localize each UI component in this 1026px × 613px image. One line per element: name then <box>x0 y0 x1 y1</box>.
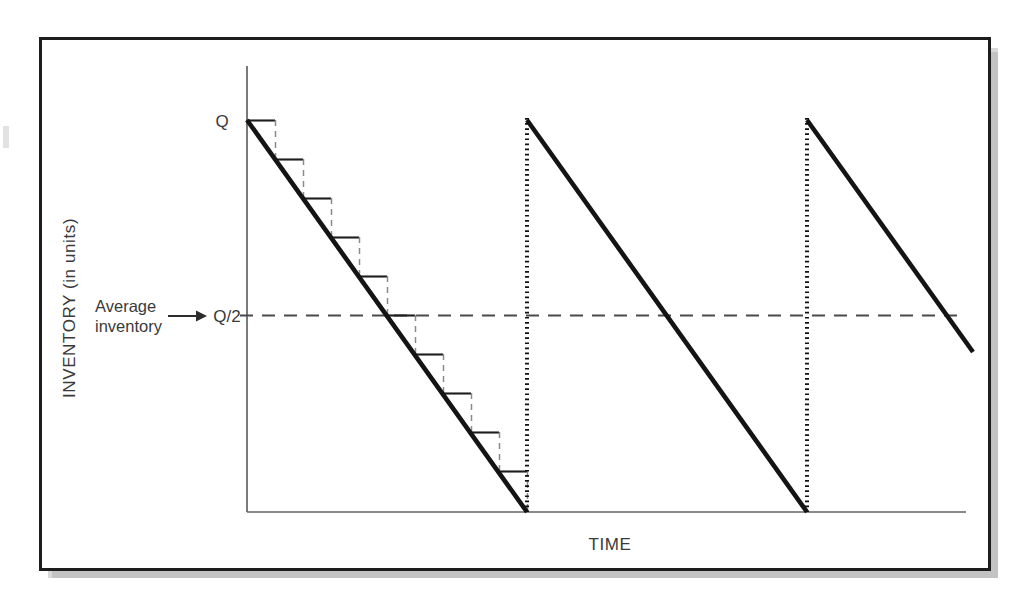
figure-root: Q Q/2 Average inventory INVENTORY (in un… <box>0 0 1026 613</box>
y-axis-title: INVENTORY (in units) <box>60 218 79 398</box>
inventory-cycle-chart: Q Q/2 Average inventory INVENTORY (in un… <box>0 0 1026 613</box>
average-inventory-label-line1: Average <box>95 297 156 315</box>
figure-plate <box>40 38 990 570</box>
y-tick-label-q-half: Q/2 <box>213 307 240 326</box>
scan-artifact <box>3 126 9 148</box>
average-inventory-label-line2: inventory <box>95 317 163 335</box>
x-axis-title: TIME <box>588 535 631 554</box>
y-tick-label-q: Q <box>215 112 228 131</box>
